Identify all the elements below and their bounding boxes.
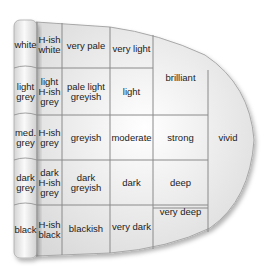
cell-moderate: moderate — [110, 115, 153, 160]
cell-med-grey: med. grey — [14, 115, 37, 160]
cell-very-deep: very deep — [153, 205, 208, 219]
cell-very-light: very light — [110, 30, 153, 68]
cell-greyish: greyish — [62, 115, 110, 160]
cell-very-dark: very dark — [110, 205, 153, 249]
cell-pale-light-greyish: pale light greyish — [62, 68, 110, 115]
cell-dark: dark — [110, 160, 153, 205]
cell-h-ish-grey: H-ish grey — [37, 115, 62, 160]
cell-light-grey: light grey — [14, 68, 37, 115]
cell-h-ish-black: H-ish black — [37, 205, 62, 255]
cell-black: black — [14, 205, 37, 255]
cell-brilliant: brilliant — [153, 60, 208, 96]
cell-white: white — [14, 22, 37, 68]
cell-very-pale: very pale — [62, 24, 110, 68]
cell-dark-greyish: dark greyish — [62, 160, 110, 205]
cell-strong: strong — [153, 115, 208, 160]
cell-dark-grey: dark grey — [14, 160, 37, 205]
cell-dark-h-ish-grey: dark H-ish grey — [37, 160, 62, 205]
cell-h-ish-white: H-ish white — [37, 22, 62, 68]
color-modifier-diagram: white light grey med. grey dark grey bla… — [0, 0, 265, 274]
cell-blackish: blackish — [62, 205, 110, 253]
cell-deep: deep — [153, 160, 208, 205]
cell-light-h-ish-grey: light H-ish grey — [37, 68, 62, 115]
cell-vivid: vivid — [208, 115, 248, 160]
cell-light: light — [110, 68, 153, 115]
